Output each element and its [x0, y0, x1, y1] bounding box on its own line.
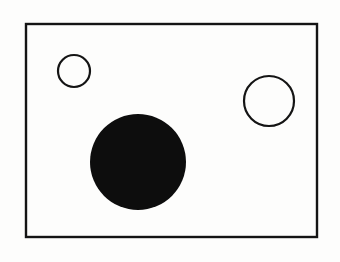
- figure-canvas: [0, 0, 340, 262]
- large-filled-circle: [90, 114, 186, 210]
- figure-container: Rectangular frame containing three circl…: [0, 0, 340, 262]
